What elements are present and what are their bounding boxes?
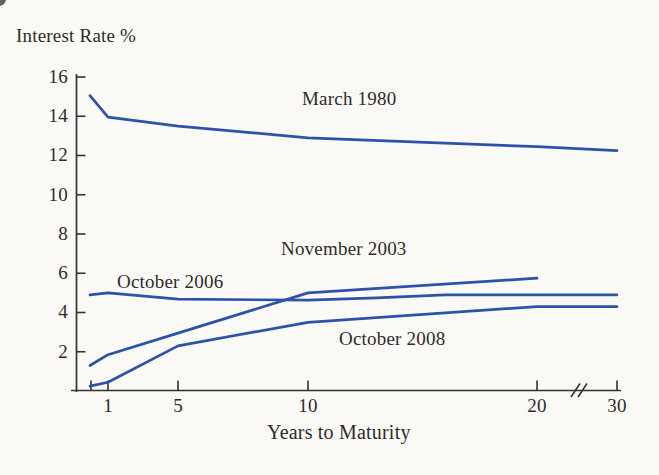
x-axis-title: Years to Maturity bbox=[267, 420, 411, 444]
yield-curve-figure: Interest Rate % 16 14 12 10 8 6 4 2 1 5 … bbox=[0, 0, 659, 475]
y-tick-label-14: 14 bbox=[38, 104, 68, 128]
y-tick-label-2: 2 bbox=[38, 340, 68, 364]
y-tick-label-8: 8 bbox=[38, 222, 68, 246]
x-tick-label-1: 1 bbox=[86, 394, 130, 418]
series-label-november-2003: November 2003 bbox=[281, 237, 407, 261]
y-tick-label-4: 4 bbox=[38, 300, 68, 324]
series-label-march-1980: March 1980 bbox=[302, 87, 396, 111]
y-tick-label-12: 12 bbox=[38, 143, 68, 167]
x-tick-label-10: 10 bbox=[286, 394, 330, 418]
y-tick-label-16: 16 bbox=[38, 65, 68, 89]
y-tick-label-10: 10 bbox=[38, 183, 68, 207]
x-tick-label-20: 20 bbox=[515, 394, 559, 418]
x-tick-label-5: 5 bbox=[156, 394, 200, 418]
series-label-october-2008: October 2008 bbox=[339, 327, 445, 351]
x-tick-label-30: 30 bbox=[595, 394, 639, 418]
series-label-october-2006: October 2006 bbox=[117, 270, 223, 294]
chart-title: Interest Rate % bbox=[16, 24, 136, 48]
y-tick-label-6: 6 bbox=[38, 261, 68, 285]
